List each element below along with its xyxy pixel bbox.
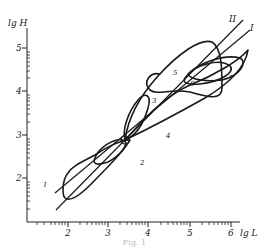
y-tick-label-3: 3 [16,130,22,140]
label-curve-3: 3 [152,97,157,105]
x-tick-label-3: 3 [105,228,111,238]
x-tick-label-2: 2 [64,228,71,238]
x-tick-label-6: 6 [228,228,234,238]
label-curve-5: 5 [173,69,178,77]
label-line-I: I [249,23,254,33]
label-line-II: II [228,14,237,24]
y-ticks [22,48,30,209]
label-curve-4: 4 [165,132,170,140]
y-tick-label-5: 5 [16,43,22,53]
label-curve-6: 6 [190,80,195,88]
x-ticks [37,222,231,227]
x-tick-label-5: 5 [187,228,193,238]
x-axis-title: lg L [240,228,258,238]
y-tick-label-4: 4 [15,86,22,96]
x-tick-label-4: 4 [144,228,151,238]
figure-caption: Fig. 1 [0,238,269,247]
label-curve-7: 7 [229,74,234,82]
y-axis-title: lg H [8,18,28,28]
y-tick-label-2: 2 [15,173,22,183]
label-curve-1: 1 [43,181,47,189]
label-curve-2: 2 [139,159,145,167]
chart-svg: lg H 5 4 3 2 2 3 4 5 6 lg L I II 1 2 3 4… [0,0,269,252]
